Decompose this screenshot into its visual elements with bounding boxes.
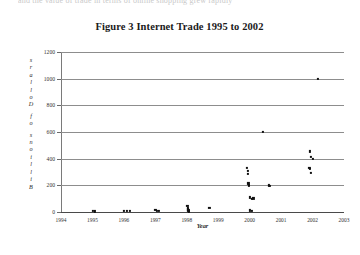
data-point (247, 170, 249, 172)
y-axis-title-char: a (25, 71, 37, 78)
y-axis-title-char: s (25, 56, 37, 63)
gridline-y-1000 (61, 79, 344, 80)
y-tick-label-1000: 1000 (44, 76, 55, 82)
data-point (128, 210, 130, 212)
gridline-y-200 (61, 185, 344, 186)
y-axis-title-char: l (25, 160, 37, 167)
chart-title: Figure 3 Internet Trade 1995 to 2002 (17, 21, 342, 32)
data-point (310, 172, 312, 174)
y-tick-label-0: 0 (52, 209, 55, 215)
y-axis-title-char: D (25, 100, 37, 107)
y-tick-mark-1000 (57, 79, 61, 80)
y-axis-title-char: i (25, 153, 37, 160)
y-axis-title-char: f (25, 112, 37, 119)
data-point (123, 210, 125, 212)
x-axis-title: Year (61, 222, 344, 229)
y-tick-mark-800 (57, 105, 61, 106)
y-tick-label-400: 400 (47, 156, 55, 162)
data-point (309, 168, 311, 170)
data-point (252, 197, 254, 199)
data-point (158, 210, 160, 212)
gridline-y-0 (61, 212, 344, 213)
y-tick-label-600: 600 (47, 129, 55, 135)
y-axis-title-char: r (25, 63, 37, 70)
y-axis-title-char: B (25, 183, 37, 190)
y-axis-title: sralloDfosnoilliB (25, 56, 37, 206)
gridline-y-1200 (61, 52, 344, 53)
y-axis-title-char: s (25, 131, 37, 138)
gridline-y-400 (61, 159, 344, 160)
data-point (94, 210, 96, 212)
gridline-y-600 (61, 132, 344, 133)
y-axis-title-char: l (25, 78, 37, 85)
data-point (251, 210, 253, 212)
figure-frame: Figure 3 Internet Trade 1995 to 2002 sra… (17, 14, 342, 247)
y-tick-mark-200 (57, 185, 61, 186)
y-tick-mark-0 (57, 212, 61, 213)
y-tick-mark-1200 (57, 52, 61, 53)
y-tick-label-800: 800 (47, 102, 55, 108)
y-axis-title-char: i (25, 175, 37, 182)
y-axis-title-char: l (25, 168, 37, 175)
y-axis-title-char: o (25, 145, 37, 152)
y-axis-title-char: n (25, 138, 37, 145)
gridline-y-800 (61, 105, 344, 106)
plot-area: 0200400600800100012001994199519961997199… (61, 52, 344, 212)
y-axis-title-char: o (25, 119, 37, 126)
data-point (269, 185, 271, 187)
data-point (208, 207, 210, 209)
y-tick-mark-400 (57, 159, 61, 160)
y-tick-mark-600 (57, 132, 61, 133)
y-axis-title-char: l (25, 86, 37, 93)
data-point (262, 131, 264, 133)
data-point (309, 150, 311, 152)
data-point (248, 185, 250, 187)
data-point (311, 158, 313, 160)
data-point (317, 78, 319, 80)
page-cut-off-text: and the value of trade in terms of onlin… (18, 0, 348, 6)
data-point (247, 173, 249, 175)
data-point (188, 210, 190, 212)
y-axis-title-char: o (25, 93, 37, 100)
y-tick-label-200: 200 (47, 182, 55, 188)
y-tick-label-1200: 1200 (44, 49, 55, 55)
